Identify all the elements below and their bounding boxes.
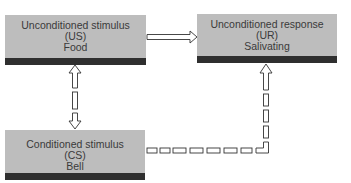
arrow-us-cs-bidirectional xyxy=(69,65,81,129)
arrows-layer xyxy=(0,0,351,183)
arrow-cs-to-ur-dashed xyxy=(147,64,272,153)
arrow-us-to-ur xyxy=(147,31,197,43)
